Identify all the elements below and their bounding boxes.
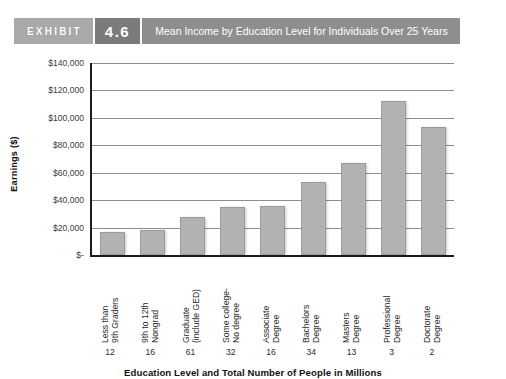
bar-slot bbox=[213, 63, 253, 255]
bar[interactable] bbox=[100, 232, 125, 255]
bar-slot bbox=[333, 63, 373, 255]
x-axis-category-line: Degree bbox=[271, 259, 281, 343]
x-axis-category-line: Doctorate bbox=[422, 259, 432, 343]
x-axis-category-label: 9th to 12thNongrad bbox=[140, 259, 160, 343]
exhibit-number-label: 4.6 bbox=[95, 18, 140, 44]
bar-slot bbox=[374, 63, 414, 255]
x-axis-category-label: Less than9th Graders bbox=[100, 259, 120, 343]
x-axis-category-line: Nongrad bbox=[150, 259, 160, 343]
bar[interactable] bbox=[381, 101, 406, 255]
x-axis-category-label: BachelorsDegree bbox=[301, 259, 321, 343]
y-axis-tick-label: $40,000 bbox=[24, 195, 84, 205]
x-label-slot: ProfessionalDegree bbox=[372, 259, 412, 345]
x-axis-count-values: 1216613216341332 bbox=[90, 347, 452, 357]
x-axis-category-line: Degree bbox=[351, 259, 361, 343]
y-axis-tick-label: $80,000 bbox=[24, 140, 84, 150]
x-axis-title: Education Level and Total Number of Peop… bbox=[0, 367, 506, 378]
x-axis-category-line: 9th to 12th bbox=[140, 259, 150, 343]
category-count-value: 3 bbox=[372, 347, 412, 357]
x-axis-category-label: MastersDegree bbox=[341, 259, 361, 343]
bar[interactable] bbox=[341, 163, 366, 255]
x-label-slot: Graduate(include GED) bbox=[170, 259, 210, 345]
bar[interactable] bbox=[301, 182, 326, 255]
x-axis-category-line: Bachelors bbox=[301, 259, 311, 343]
y-axis-tick-label: $60,000 bbox=[24, 168, 84, 178]
y-axis-tick-labels: $140,000$120,000$100,000$80,000$60,000$4… bbox=[22, 55, 84, 255]
y-axis-tick-label: $100,000 bbox=[24, 113, 84, 123]
x-axis-category-line: (include GED) bbox=[191, 259, 201, 343]
y-axis-tick-label: $140,000 bbox=[24, 58, 84, 68]
bar[interactable] bbox=[140, 230, 165, 255]
bar-slot bbox=[92, 63, 132, 255]
x-axis-category-line: Less than bbox=[100, 259, 110, 343]
exhibit-word-label: EXHIBIT bbox=[14, 18, 93, 44]
x-axis-category-line: Professional bbox=[382, 259, 392, 343]
bar-slot bbox=[253, 63, 293, 255]
x-label-slot: MastersDegree bbox=[331, 259, 371, 345]
x-axis-category-label: Some college-No degree bbox=[221, 259, 241, 343]
x-axis-category-label: AssociateDegree bbox=[261, 259, 281, 343]
category-count-value: 2 bbox=[412, 347, 452, 357]
bar[interactable] bbox=[220, 207, 245, 255]
category-count-value: 34 bbox=[291, 347, 331, 357]
x-label-slot: Less than9th Graders bbox=[90, 259, 130, 345]
plot-area bbox=[90, 63, 454, 257]
x-axis-category-line: No degree bbox=[231, 259, 241, 343]
bar-series bbox=[92, 63, 454, 255]
x-axis-category-line: Degree bbox=[432, 259, 442, 343]
y-axis-tick-label: $20,000 bbox=[24, 223, 84, 233]
x-axis-category-line: Graduate bbox=[181, 259, 191, 343]
bar[interactable] bbox=[421, 127, 446, 255]
bar-slot bbox=[132, 63, 172, 255]
y-axis-title: Earnings ($) bbox=[9, 136, 19, 192]
category-count-value: 32 bbox=[211, 347, 251, 357]
y-axis-tick-label: $- bbox=[24, 250, 84, 260]
x-axis-category-line: Degree bbox=[311, 259, 321, 343]
bar-slot bbox=[172, 63, 212, 255]
x-axis-category-line: Associate bbox=[261, 259, 271, 343]
category-count-value: 13 bbox=[331, 347, 371, 357]
x-label-slot: Some college-No degree bbox=[211, 259, 251, 345]
chart-area: Earnings ($) $140,000$120,000$100,000$80… bbox=[0, 55, 506, 379]
category-count-value: 16 bbox=[251, 347, 291, 357]
x-label-slot: DoctorateDegree bbox=[412, 259, 452, 345]
x-axis-category-line: Degree bbox=[392, 259, 402, 343]
x-label-slot: 9th to 12thNongrad bbox=[130, 259, 170, 345]
category-count-value: 12 bbox=[90, 347, 130, 357]
bar-slot bbox=[414, 63, 454, 255]
y-axis-tick-label: $120,000 bbox=[24, 85, 84, 95]
x-axis-category-line: Some college- bbox=[221, 259, 231, 343]
x-label-slot: AssociateDegree bbox=[251, 259, 291, 345]
x-axis-tick-labels: Less than9th Graders9th to 12thNongradGr… bbox=[90, 259, 452, 345]
bar-slot bbox=[293, 63, 333, 255]
category-count-value: 61 bbox=[170, 347, 210, 357]
x-axis-category-label: DoctorateDegree bbox=[422, 259, 442, 343]
exhibit-header: EXHIBIT 4.6 Mean Income by Education Lev… bbox=[14, 18, 460, 44]
bar[interactable] bbox=[180, 217, 205, 255]
x-axis-category-line: Masters bbox=[341, 259, 351, 343]
exhibit-title-label: Mean Income by Education Level for Indiv… bbox=[142, 18, 459, 44]
x-axis-category-line: 9th Graders bbox=[110, 259, 120, 343]
x-axis-category-label: ProfessionalDegree bbox=[382, 259, 402, 343]
category-count-value: 16 bbox=[130, 347, 170, 357]
x-axis-category-label: Graduate(include GED) bbox=[181, 259, 201, 343]
bar[interactable] bbox=[260, 206, 285, 255]
x-label-slot: BachelorsDegree bbox=[291, 259, 331, 345]
